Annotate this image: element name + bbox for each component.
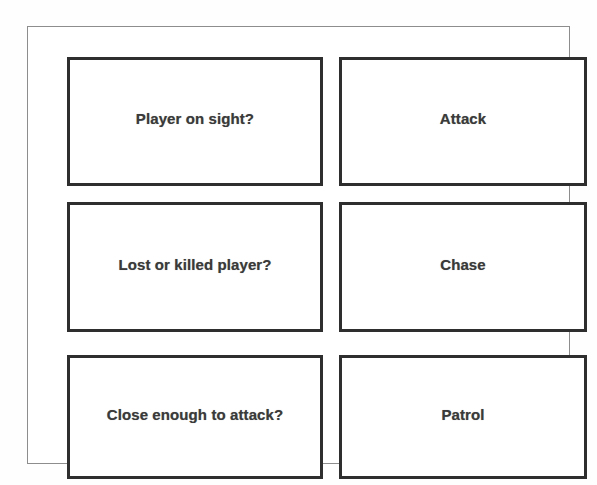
condition-box-1[interactable]: Player on sight? (67, 57, 323, 186)
condition-box-2[interactable]: Lost or killed player? (67, 202, 323, 332)
condition-box-3[interactable]: Close enough to attack? (67, 355, 323, 479)
state-label-2: Chase (342, 256, 584, 273)
state-label-1: Attack (342, 110, 584, 127)
diagram-grid: Player on sight? Attack Lost or killed p… (67, 57, 587, 479)
screenshot-root: Player on sight? Attack Lost or killed p… (0, 0, 597, 485)
diagram-outer-frame: Player on sight? Attack Lost or killed p… (27, 26, 570, 464)
state-box-1[interactable]: Attack (339, 57, 587, 186)
state-box-2[interactable]: Chase (339, 202, 587, 332)
condition-label-3: Close enough to attack? (70, 406, 320, 423)
condition-label-2: Lost or killed player? (70, 256, 320, 273)
condition-label-1: Player on sight? (70, 110, 320, 127)
state-box-3[interactable]: Patrol (339, 355, 587, 479)
state-label-3: Patrol (342, 406, 584, 423)
